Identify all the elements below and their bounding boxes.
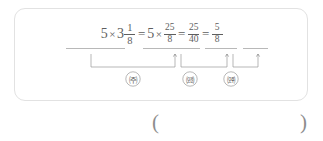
term-1-denominator: 8 [126, 35, 133, 46]
step-label-c-group: ㈞ [224, 72, 238, 86]
bracket-step-b [181, 54, 227, 67]
step-label-a-circle [126, 72, 140, 86]
equation-term-1: 5 × 3 1 8 [101, 22, 136, 46]
equation-term-2: 5 × 25 8 [147, 23, 176, 45]
term-1-numerator: 1 [126, 22, 133, 33]
step-label-a-text: ㈜ [129, 75, 138, 85]
bracket-step-a [91, 54, 175, 67]
equation-term-4: 5 8 [211, 23, 223, 45]
term-4-numerator: 5 [214, 23, 221, 33]
equals-sign-2: = [178, 26, 185, 42]
multiply-sign-2: × [156, 28, 162, 40]
term-2-denominator: 8 [166, 35, 173, 45]
term-1-whole: 5 [101, 26, 108, 42]
term-1-fraction: 1 8 [124, 22, 135, 46]
answer-paren-open: ( [152, 103, 159, 141]
term-3-numerator: 25 [188, 23, 200, 33]
term-2-numerator: 25 [164, 23, 176, 33]
answer-paren-close: ) [300, 103, 307, 141]
equation: 5 × 3 1 8 = 5 × 25 8 = 25 [15, 22, 309, 46]
tick-arrow-c [256, 54, 259, 57]
term-3-denominator: 40 [188, 35, 200, 45]
multiply-sign-1: × [109, 28, 115, 40]
term-2-whole: 5 [147, 26, 154, 42]
step-label-b-group: ㈝ [183, 72, 197, 86]
answer-row[interactable]: ( ) [0, 103, 323, 141]
term-4-denominator: 8 [214, 35, 221, 45]
term-1-mixed-whole: 3 [117, 26, 124, 42]
term-3-fraction: 25 40 [188, 23, 200, 45]
term-4-fraction: 5 8 [212, 23, 223, 45]
step-label-b-text: ㈝ [186, 75, 195, 85]
step-label-b-circle [183, 72, 197, 86]
step-label-c-text: ㈞ [227, 75, 236, 85]
problem-box: 5 × 3 1 8 = 5 × 25 8 = 25 [14, 8, 308, 101]
term-2-fraction: 25 8 [164, 23, 176, 45]
bracket-step-c [233, 54, 258, 67]
tick-arrow-a [173, 54, 176, 57]
step-label-c-circle [224, 72, 238, 86]
equation-term-3: 25 40 [187, 23, 200, 45]
equals-sign-3: = [202, 26, 209, 42]
equals-sign-1: = [138, 26, 145, 42]
step-label-a-group: ㈜ [126, 72, 140, 86]
tick-arrow-b [225, 54, 228, 57]
